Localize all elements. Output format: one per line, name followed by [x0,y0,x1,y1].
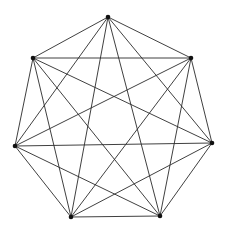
edge-v0-v1 [108,17,191,58]
edge-v1-v3 [160,58,191,216]
edge-v0-v6 [33,17,108,58]
vertex-v1 [189,56,194,61]
edge-v3-v4 [71,216,160,217]
edge-v2-v3 [160,143,212,216]
vertices [13,15,215,220]
vertex-v5 [13,144,18,149]
edges [15,17,212,217]
complete-graph-diagram [0,0,230,233]
vertex-v2 [210,141,215,146]
edge-v0-v5 [15,17,108,146]
edge-v0-v3 [108,17,160,216]
vertex-v0 [106,15,111,20]
edge-v2-v5 [15,143,212,146]
edge-v1-v4 [71,58,191,217]
edge-v2-v4 [71,143,212,217]
edge-v3-v5 [15,146,160,216]
edge-v0-v4 [71,17,108,217]
vertex-v3 [158,214,163,219]
edge-v1-v5 [15,58,191,146]
vertex-v6 [31,56,36,61]
vertex-v4 [69,215,74,220]
